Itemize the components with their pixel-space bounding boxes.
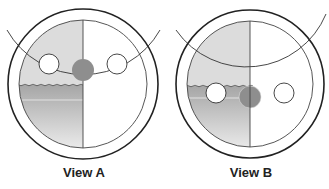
view-a	[7, 9, 160, 159]
view-b-label: View B	[211, 165, 291, 180]
view-a-right-ball	[107, 54, 127, 74]
view-a-label: View A	[44, 165, 124, 180]
view-b-right-ball	[274, 83, 294, 103]
view-a-left-ball	[39, 54, 59, 74]
diagram-canvas	[0, 0, 329, 189]
view-a-upper-shade	[15, 18, 83, 85]
view-a-center-ball	[72, 59, 94, 81]
view-b	[176, 10, 326, 158]
view-a-lower-shade	[15, 85, 83, 155]
view-a-left-half-shading	[15, 18, 83, 155]
view-b-left-ball	[206, 83, 226, 103]
view-b-upper-shade	[185, 18, 250, 86]
